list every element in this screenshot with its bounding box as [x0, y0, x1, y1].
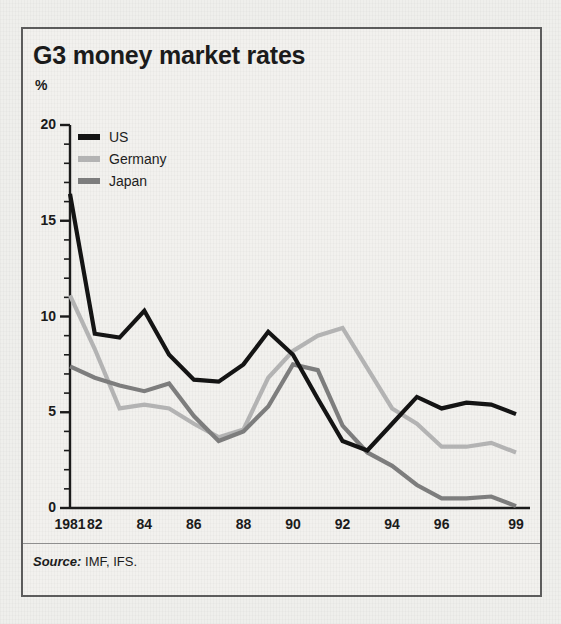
x-axis-tick-label: 82: [87, 516, 103, 532]
x-axis-tick-label: 92: [335, 516, 351, 532]
legend-swatch-icon: [78, 134, 100, 140]
source-divider: [23, 543, 540, 544]
legend-swatch-icon: [78, 178, 100, 184]
y-axis-unit-label: %: [35, 77, 47, 93]
y-axis-tick-label: 0: [22, 499, 56, 515]
legend-item: Japan: [78, 170, 167, 192]
legend-item: Germany: [78, 148, 167, 170]
source-value: IMF, IFS.: [85, 554, 137, 569]
y-axis-tick-label: 20: [22, 116, 56, 132]
y-axis-tick-label: 10: [22, 308, 56, 324]
x-axis-tick-label: 84: [137, 516, 153, 532]
chart-title: G3 money market rates: [33, 41, 305, 70]
legend-item-label: Germany: [109, 151, 167, 167]
x-axis-tick-label: 88: [236, 516, 252, 532]
x-axis-tick-label: 94: [384, 516, 400, 532]
legend-swatch-icon: [78, 156, 100, 162]
chart-figure: G3 money market rates % USGermanyJapan S…: [0, 0, 561, 624]
legend-item-label: Japan: [109, 173, 147, 189]
source-note: Source: IMF, IFS.: [33, 554, 137, 569]
x-axis-tick-label: 90: [285, 516, 301, 532]
x-axis-tick-label: 86: [186, 516, 202, 532]
y-axis-tick-label: 15: [22, 212, 56, 228]
chart-panel: [21, 27, 542, 597]
source-label: Source:: [33, 554, 81, 569]
chart-legend: USGermanyJapan: [78, 126, 167, 192]
legend-item: US: [78, 126, 167, 148]
y-axis-tick-label: 5: [22, 403, 56, 419]
x-axis-tick-label: 96: [434, 516, 450, 532]
x-axis-tick-label: 1981: [54, 516, 85, 532]
x-axis-tick-label: 99: [508, 516, 524, 532]
legend-item-label: US: [109, 129, 128, 145]
